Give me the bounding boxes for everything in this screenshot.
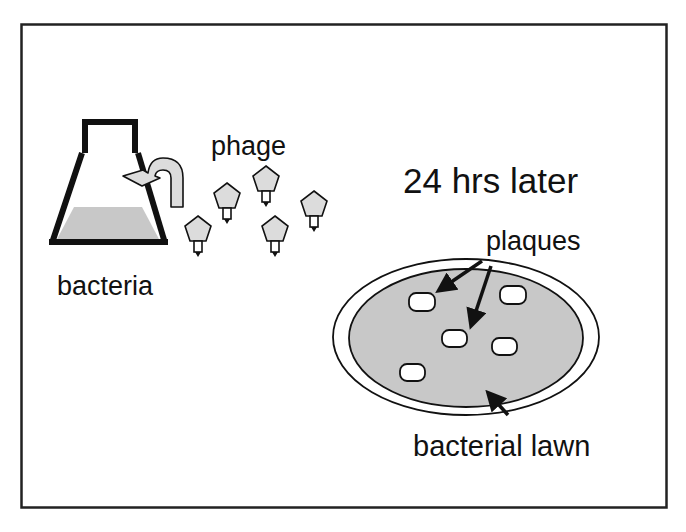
plaque-icon — [442, 330, 467, 347]
plaque-icon — [400, 364, 425, 381]
phage-plaque-diagram: phage bacteria 24 hrs later plaques bact… — [0, 0, 686, 532]
plaque-icon — [492, 338, 517, 355]
label-time: 24 hrs later — [403, 161, 578, 200]
label-bacteria: bacteria — [57, 271, 154, 301]
plaque-icon — [409, 293, 435, 311]
petri-dish — [333, 259, 599, 415]
label-phage: phage — [211, 131, 286, 161]
label-plaques: plaques — [486, 226, 581, 256]
label-bacterial-lawn: bacterial lawn — [413, 430, 590, 462]
plaque-icon — [500, 286, 526, 304]
